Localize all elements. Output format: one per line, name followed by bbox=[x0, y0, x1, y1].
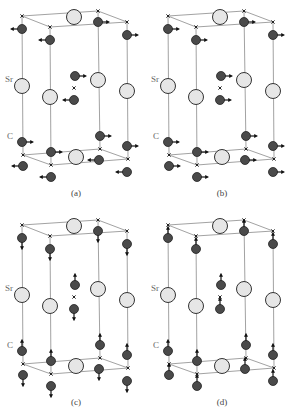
sr-atom bbox=[215, 150, 230, 165]
c-atom bbox=[46, 245, 55, 254]
c-label: C bbox=[153, 131, 159, 141]
sr-atom bbox=[43, 299, 58, 314]
c-atom bbox=[47, 382, 56, 391]
c-atom bbox=[217, 72, 226, 81]
sr-label: Sr bbox=[5, 283, 13, 293]
c-atom bbox=[96, 341, 105, 350]
c-atom bbox=[94, 18, 103, 27]
c-atom bbox=[47, 148, 56, 157]
c-atom bbox=[123, 240, 132, 249]
c-atom bbox=[164, 234, 173, 243]
c-atom bbox=[269, 351, 278, 360]
panel-b: SrC(b) bbox=[151, 9, 283, 198]
sr-atom bbox=[91, 73, 106, 88]
panel-c: SrC(c) bbox=[5, 218, 135, 407]
c-atom bbox=[242, 341, 251, 350]
sr-atom bbox=[120, 293, 135, 308]
panel-label-a: (a) bbox=[71, 188, 81, 198]
c-atom bbox=[70, 96, 79, 105]
c-atom bbox=[18, 25, 27, 34]
c-atom bbox=[193, 357, 202, 366]
c-label: C bbox=[7, 340, 13, 350]
corner-mark bbox=[218, 295, 221, 298]
c-atom bbox=[165, 162, 174, 171]
c-atom bbox=[46, 36, 55, 45]
c-atom bbox=[95, 365, 104, 374]
sr-atom bbox=[120, 84, 135, 99]
c-label: C bbox=[153, 340, 159, 350]
c-atom bbox=[269, 31, 278, 40]
sr-atom bbox=[189, 90, 204, 105]
sr-atom bbox=[67, 10, 82, 25]
c-atom bbox=[269, 240, 278, 249]
c-atom bbox=[123, 168, 132, 177]
sr-label: Sr bbox=[5, 74, 13, 84]
c-atom bbox=[164, 138, 173, 147]
c-atom bbox=[193, 148, 202, 157]
corner-mark bbox=[218, 86, 221, 89]
panel-label-b: (b) bbox=[217, 188, 228, 198]
c-atom bbox=[192, 245, 201, 254]
panel-label-d: (d) bbox=[217, 397, 228, 407]
c-atom bbox=[240, 18, 249, 27]
sr-label: Sr bbox=[151, 74, 159, 84]
sr-atom bbox=[69, 359, 84, 374]
sr-atom bbox=[67, 219, 82, 234]
phonon-mode-figure: SrC(a)SrC(b)SrC(c)SrC(d) bbox=[0, 0, 292, 414]
corner-mark bbox=[72, 86, 75, 89]
sr-atom bbox=[213, 10, 228, 25]
c-atom bbox=[18, 138, 27, 147]
c-atom bbox=[94, 227, 103, 236]
c-atom bbox=[123, 31, 132, 40]
sr-atom bbox=[43, 90, 58, 105]
c-atom bbox=[19, 162, 28, 171]
sr-atom bbox=[189, 299, 204, 314]
sr-atom bbox=[91, 282, 106, 297]
c-atom bbox=[269, 377, 278, 386]
sr-label: Sr bbox=[151, 283, 159, 293]
c-atom bbox=[71, 281, 80, 290]
panel-label-c: (c) bbox=[71, 397, 81, 407]
c-atom bbox=[164, 347, 173, 356]
c-atom bbox=[123, 351, 132, 360]
c-atom bbox=[165, 371, 174, 380]
c-label: C bbox=[7, 131, 13, 141]
c-atom bbox=[217, 281, 226, 290]
c-atom bbox=[216, 305, 225, 314]
corner-mark bbox=[72, 295, 75, 298]
c-atom bbox=[193, 382, 202, 391]
sr-atom bbox=[215, 359, 230, 374]
c-atom bbox=[96, 132, 105, 141]
c-atom bbox=[192, 36, 201, 45]
c-atom bbox=[164, 25, 173, 34]
panel-a: SrC(a) bbox=[5, 9, 137, 198]
c-atom bbox=[269, 168, 278, 177]
c-atom bbox=[241, 365, 250, 374]
c-atom bbox=[47, 173, 56, 182]
c-atom bbox=[240, 227, 249, 236]
sr-atom bbox=[237, 73, 252, 88]
sr-atom bbox=[237, 282, 252, 297]
c-atom bbox=[71, 72, 80, 81]
c-atom bbox=[241, 156, 250, 165]
c-atom bbox=[19, 371, 28, 380]
sr-atom bbox=[69, 150, 84, 165]
c-atom bbox=[269, 142, 278, 151]
sr-atom bbox=[15, 79, 30, 94]
c-atom bbox=[123, 377, 132, 386]
panel-d: SrC(d) bbox=[151, 218, 281, 407]
sr-atom bbox=[15, 288, 30, 303]
sr-atom bbox=[266, 293, 281, 308]
c-atom bbox=[216, 96, 225, 105]
sr-atom bbox=[161, 79, 176, 94]
sr-atom bbox=[161, 288, 176, 303]
c-atom bbox=[18, 234, 27, 243]
c-atom bbox=[18, 347, 27, 356]
sr-atom bbox=[213, 219, 228, 234]
c-atom bbox=[47, 357, 56, 366]
c-atom bbox=[242, 132, 251, 141]
c-atom bbox=[70, 305, 79, 314]
c-atom bbox=[193, 173, 202, 182]
c-atom bbox=[95, 156, 104, 165]
sr-atom bbox=[266, 84, 281, 99]
